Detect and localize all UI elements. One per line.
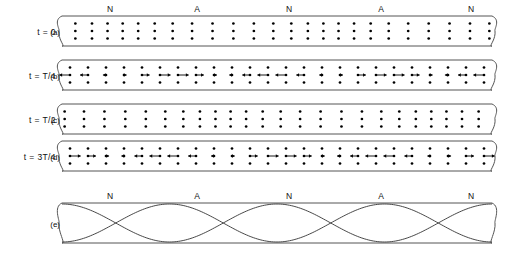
row-d-dot [213, 147, 216, 150]
row-b-dot [249, 66, 252, 69]
row-a-dot [106, 22, 109, 25]
row-c-dot [461, 125, 464, 128]
row-a-dot [91, 22, 94, 25]
row-d-dot [321, 162, 324, 165]
row-b-velocity-arrow [296, 73, 304, 76]
row-c-dot [83, 110, 86, 113]
row-b-velocity-arrow [473, 73, 484, 76]
row-b-dot [195, 66, 198, 69]
row-c-dot [144, 110, 147, 113]
row-a-dot [253, 22, 256, 25]
row-c-dot [361, 110, 364, 113]
row-d-velocity-arrow [427, 154, 430, 157]
row-d-dot [357, 147, 360, 150]
row-c-dot [245, 118, 248, 121]
row-b-dot [141, 66, 144, 69]
row-c-dot [414, 118, 417, 121]
row-e-panel-label: (e) [50, 220, 60, 229]
row-b-dot [447, 66, 450, 69]
row-d-dot [465, 147, 468, 150]
row-a-dot [448, 37, 451, 40]
row-b-dot [285, 66, 288, 69]
row-a-dot [290, 22, 293, 25]
row-a-dot [137, 37, 140, 40]
row-a-dot [322, 37, 325, 40]
row-c-dot [63, 110, 66, 113]
row-b-velocity-arrow [458, 73, 466, 76]
row-b-dot [429, 66, 432, 69]
row-b-velocity-arrow [275, 73, 286, 76]
row-b-velocity-arrow [340, 73, 343, 76]
row-d-dot [159, 162, 162, 165]
row-b-dot [465, 66, 468, 69]
row-a-dot [153, 37, 156, 40]
row-b-velocity-arrow [358, 73, 366, 76]
row-d-velocity-arrow [250, 154, 258, 157]
row-c-dot [461, 110, 464, 113]
row-d-velocity-arrow [383, 154, 394, 157]
row-d-dot [411, 147, 414, 150]
row-e-tube-right-open-end [491, 203, 497, 243]
row-d-velocity-arrow [70, 154, 81, 157]
row-d-dot [393, 147, 396, 150]
row-b-dot [267, 66, 270, 69]
row-c-dot [199, 118, 202, 121]
row-b-dot [429, 81, 432, 84]
row-b-tube-right-open-end [491, 60, 497, 90]
row-d-velocity-arrow [350, 154, 358, 157]
row-a-dot [488, 37, 491, 40]
row-a-dot [153, 30, 156, 33]
row-d-dot [393, 162, 396, 165]
row-c-dot [279, 118, 282, 121]
row-d-velocity-arrow [304, 154, 312, 157]
row-d-velocity-arrow [188, 154, 196, 157]
row-b-velocity-arrow [445, 73, 448, 76]
row-c-dot [229, 125, 232, 128]
row-e-marker-antinode-1: A [194, 191, 200, 201]
row-a-dot [427, 30, 430, 33]
row-b-velocity-arrow [394, 73, 405, 76]
row-e-marker-node-2: N [286, 191, 292, 201]
row-a-dot [137, 30, 140, 33]
row-d-velocity-arrow [106, 154, 109, 157]
row-b-velocity-arrow [376, 73, 387, 76]
row-d-dot [123, 147, 126, 150]
row-c-dot [229, 110, 232, 113]
row-c-dot [319, 125, 322, 128]
row-b-dot [69, 66, 72, 69]
row-c-dot [103, 118, 106, 121]
row-b-velocity-arrow [257, 73, 268, 76]
row-d-velocity-arrow [337, 154, 340, 157]
row-a-dot [211, 37, 214, 40]
row-a-dot [121, 22, 124, 25]
row-d-dot [123, 162, 126, 165]
row-b-dot [483, 81, 486, 84]
row-d-dot [375, 162, 378, 165]
row-a-dot [191, 22, 194, 25]
row-a-dot [427, 37, 430, 40]
row-d-dot [339, 162, 342, 165]
row-d-dot [249, 147, 252, 150]
row-d-velocity-arrow [365, 154, 376, 157]
row-a-dot [153, 22, 156, 25]
row-a-dot [307, 30, 310, 33]
row-a-dot [137, 22, 140, 25]
row-c-dot [63, 125, 66, 128]
row-b-velocity-arrow [59, 73, 70, 76]
row-b-velocity-arrow [214, 73, 217, 76]
row-a-dot [121, 30, 124, 33]
row-c-dot [445, 125, 448, 128]
row-b-dot [393, 81, 396, 84]
row-a-dot [74, 22, 77, 25]
row-e-marker-antinode-3: A [378, 191, 384, 201]
row-a-dot [337, 30, 340, 33]
row-a-dot [469, 30, 472, 33]
row-b-dot [411, 66, 414, 69]
row-b-velocity-arrow [103, 73, 106, 76]
row-c-dot [477, 125, 480, 128]
row-b-dot [123, 81, 126, 84]
row-d-velocity-arrow [167, 154, 178, 157]
row-d-velocity-arrow [448, 154, 451, 157]
row-b-dot [249, 81, 252, 84]
row-c-dot [83, 118, 86, 121]
